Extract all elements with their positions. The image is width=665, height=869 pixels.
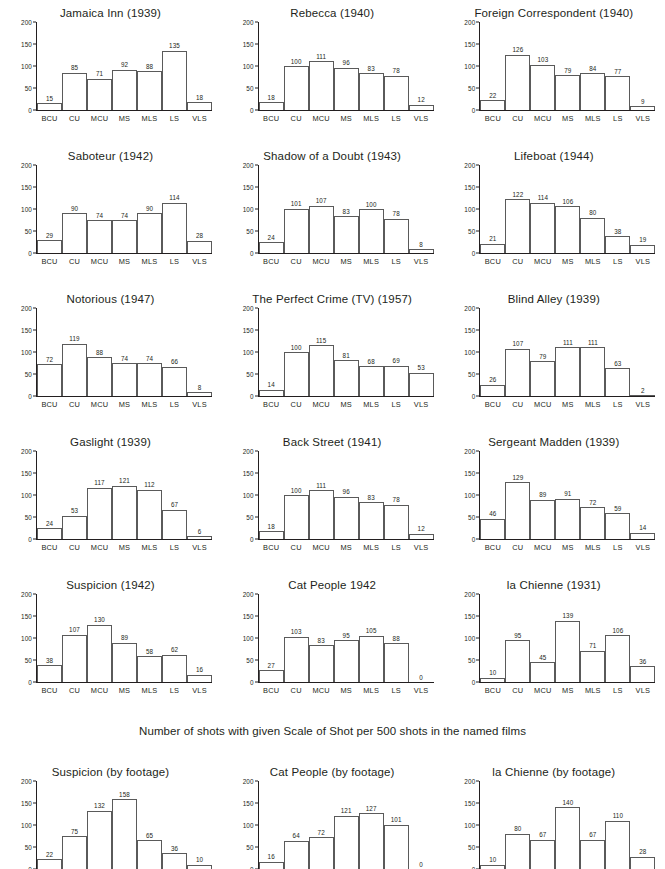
x-tick-label: MLS [359, 686, 384, 695]
bar-cell: 83 [359, 22, 384, 110]
y-tick-label: 100 [243, 349, 254, 356]
bar [284, 637, 309, 682]
bar-cell: 38 [605, 165, 630, 253]
y-tick-label: 150 [243, 470, 254, 477]
x-tick-label: MLS [137, 257, 162, 266]
y-tick-label: 0 [28, 866, 32, 869]
bar-cell: 74 [137, 308, 162, 396]
x-axis-labels: BCUCUMCUMSMLSLSVLS [259, 543, 434, 552]
x-tick-label: MLS [137, 400, 162, 409]
y-tick-label: 150 [243, 184, 254, 191]
bar [62, 344, 87, 396]
y-axis: 050100150200 [222, 308, 258, 396]
x-tick-label: MCU [87, 686, 112, 695]
x-tick-label: MLS [580, 257, 605, 266]
bar-cell: 18 [259, 451, 284, 539]
bar-value-label: 53 [409, 364, 434, 371]
x-tick-label: CU [505, 543, 530, 552]
bar-value-label: 115 [309, 337, 334, 344]
y-tick-label: 200 [21, 448, 32, 455]
x-tick-label: BCU [480, 257, 505, 266]
section-spacer [0, 737, 665, 763]
bar-value-label: 67 [530, 831, 555, 838]
bar [87, 811, 112, 869]
bar-value-label: 28 [187, 232, 212, 239]
chart-title: la Chienne (1931) [443, 576, 664, 594]
bar [605, 76, 630, 110]
bar-value-label: 85 [62, 64, 87, 71]
bar-value-label: 24 [37, 520, 62, 527]
y-axis: 050100150200 [0, 165, 36, 253]
bar-value-label: 122 [505, 191, 530, 198]
bar-value-label: 88 [384, 635, 409, 642]
bar-value-label: 106 [555, 198, 580, 205]
bar-cell: 74 [112, 308, 137, 396]
x-tick-label: CU [62, 686, 87, 695]
bar [309, 490, 334, 539]
y-tick-label: 0 [28, 679, 32, 686]
y-tick-label: 0 [250, 536, 254, 543]
bar-value-label: 100 [284, 487, 309, 494]
bar-value-label: 29 [37, 232, 62, 239]
bar-value-label: 111 [309, 53, 334, 60]
bar-cell: 24 [37, 451, 62, 539]
bar-series: 271038395105880 [259, 594, 434, 682]
bar-value-label: 114 [162, 194, 187, 201]
x-tick-label: VLS [409, 257, 434, 266]
x-tick-label: BCU [37, 257, 62, 266]
bar [112, 799, 137, 869]
y-tick-label: 150 [243, 613, 254, 620]
x-tick-label: MLS [580, 400, 605, 409]
y-tick-label: 150 [464, 327, 475, 334]
y-axis: 050100150200 [222, 451, 258, 539]
x-axis-labels: BCUCUMCUMSMLSLSVLS [480, 257, 655, 266]
bar [359, 209, 384, 253]
bar-cell: 27 [259, 594, 284, 682]
bar-value-label: 27 [259, 662, 284, 669]
bar [555, 807, 580, 869]
x-tick-label: LS [384, 257, 409, 266]
x-tick-label: CU [62, 400, 87, 409]
y-tick-label: 150 [21, 800, 32, 807]
x-axis-line [479, 396, 655, 397]
bar [187, 536, 212, 539]
bar-cell: 63 [605, 308, 630, 396]
bar-cell: 16 [187, 594, 212, 682]
y-tick-label: 100 [464, 206, 475, 213]
bar [112, 486, 137, 539]
bar-value-label: 83 [309, 637, 334, 644]
bar-cell: 38 [37, 594, 62, 682]
bar-cell: 68 [359, 308, 384, 396]
bar-cell: 114 [530, 165, 555, 253]
bar-cell: 80 [505, 781, 530, 869]
bar [530, 361, 555, 396]
bar [187, 675, 212, 682]
bar-cell: 83 [359, 451, 384, 539]
y-tick-label: 0 [250, 250, 254, 257]
bar-value-label: 158 [112, 791, 137, 798]
chart-grid-top: Jamaica Inn (1939)0501001502001585719288… [0, 4, 665, 719]
bar-cell: 9 [630, 22, 655, 110]
y-tick-label: 150 [464, 184, 475, 191]
chart-panel: Notorious (1947)050100150200721198874746… [0, 290, 221, 433]
x-tick-label: VLS [409, 543, 434, 552]
x-tick-label: BCU [480, 543, 505, 552]
bar-cell: 117 [87, 451, 112, 539]
bar-cell: 77 [605, 22, 630, 110]
x-axis-line [479, 110, 655, 111]
bar-cell: 89 [112, 594, 137, 682]
bar-value-label: 79 [555, 67, 580, 74]
bar-cell: 122 [505, 165, 530, 253]
x-tick-label: MS [112, 543, 137, 552]
bar [359, 366, 384, 396]
bar [137, 363, 162, 396]
x-tick-label: MCU [309, 257, 334, 266]
bar-value-label: 0 [409, 861, 434, 868]
bar-cell: 88 [87, 308, 112, 396]
bar [309, 645, 334, 682]
bar-cell: 79 [530, 308, 555, 396]
x-tick-label: BCU [37, 114, 62, 123]
bar-cell: 67 [162, 451, 187, 539]
bar-value-label: 135 [162, 42, 187, 49]
bar [384, 643, 409, 682]
